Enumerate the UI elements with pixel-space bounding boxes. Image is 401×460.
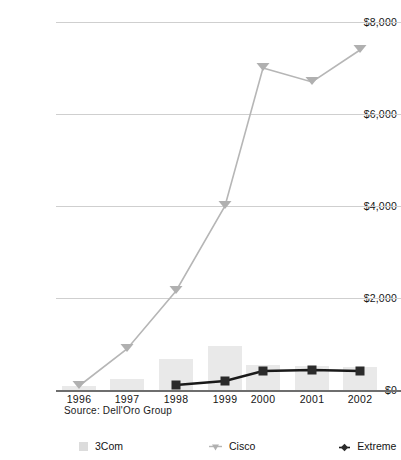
legend-item-cisco: Cisco (209, 440, 255, 452)
chart-legend: 3Com Cisco Extreme (0, 436, 401, 456)
filled-square-swatch-icon (79, 442, 88, 451)
x-axis-tick-1996: 1996 (53, 393, 105, 405)
cisco-marker-1998 (170, 286, 183, 294)
legend-item-extreme: Extreme (339, 440, 396, 452)
source-note: Source: Dell'Oro Group (64, 405, 172, 416)
extreme-marker-2000 (259, 367, 268, 376)
legend-label-extreme: Extreme (357, 440, 396, 452)
x-axis-tick-2002: 2002 (334, 393, 386, 405)
cisco-line (79, 50, 360, 386)
diamond-marker-icon (339, 442, 350, 451)
cisco-marker-1997 (121, 344, 134, 352)
legend-item-3com: 3Com (79, 440, 123, 452)
line-series-overlay (0, 0, 401, 460)
cisco-marker-1999 (219, 201, 232, 209)
chart-container: $8,000 $6,000 $4,000 $2,000 $0 (0, 0, 401, 460)
extreme-marker-2002 (356, 367, 365, 376)
legend-label-3com: 3Com (95, 440, 123, 452)
extreme-marker-2001 (308, 366, 317, 375)
extreme-marker-1999 (221, 377, 230, 386)
x-axis-tick-2001: 2001 (286, 393, 338, 405)
legend-label-cisco: Cisco (229, 440, 255, 452)
triangle-down-marker-icon (209, 442, 222, 451)
x-axis-tick-1997: 1997 (101, 393, 153, 405)
extreme-markers (172, 366, 365, 390)
extreme-line (176, 370, 360, 385)
cisco-marker-1996 (73, 381, 86, 389)
x-axis-tick-1998: 1998 (150, 393, 202, 405)
cisco-marker-2002 (354, 45, 367, 53)
extreme-marker-1998 (172, 381, 181, 390)
x-axis-tick-2000: 2000 (237, 393, 289, 405)
